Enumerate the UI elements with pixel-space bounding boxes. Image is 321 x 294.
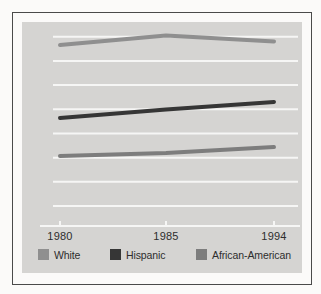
legend-item-hispanic: Hispanic (110, 248, 165, 261)
legend-swatch-white (38, 249, 49, 260)
legend-label-hispanic: Hispanic (126, 249, 165, 261)
legend-item-white: White (38, 248, 80, 261)
legend-label-white: White (54, 249, 80, 261)
legend-item-african-american: African-American (196, 248, 291, 261)
legend-swatch-african-american (196, 249, 207, 260)
line-chart (22, 22, 302, 273)
legend-swatch-hispanic (110, 249, 121, 260)
plot-area: 1980 1985 1994 White Hispanic African-Am… (22, 22, 302, 273)
legend-label-african-american: African-American (212, 249, 291, 261)
chart-frame: 1980 1985 1994 White Hispanic African-Am… (12, 12, 312, 285)
legend: White Hispanic African-American (22, 248, 302, 264)
